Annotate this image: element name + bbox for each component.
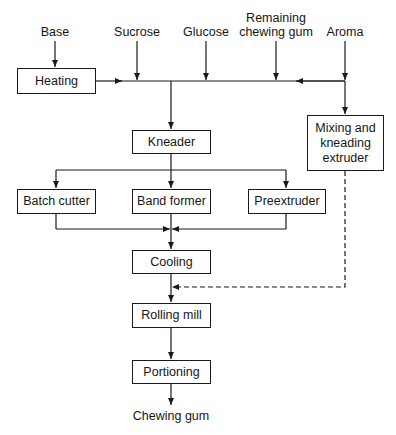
input-sucrose: Sucrose: [107, 25, 167, 39]
process-band-former: Band former: [132, 189, 211, 214]
input-base: Base: [35, 25, 75, 39]
process-mixing-line1: Mixing and: [315, 121, 375, 136]
process-preextruder: Preextruder: [248, 189, 326, 214]
process-kneader-label: Kneader: [148, 135, 195, 150]
input-remaining-gum-line2: chewing gum: [236, 25, 316, 39]
dashed-arrowhead: [172, 284, 179, 290]
input-remaining-gum-line1: Remaining: [236, 11, 316, 25]
process-heating-label: Heating: [35, 74, 78, 89]
process-kneader: Kneader: [132, 130, 211, 154]
process-mixing-extruder: Mixing and kneading extruder: [307, 115, 384, 171]
process-band-former-label: Band former: [137, 194, 206, 209]
process-batch-cutter: Batch cutter: [17, 189, 96, 214]
process-portioning-label: Portioning: [143, 365, 199, 380]
process-heating: Heating: [17, 68, 96, 94]
process-rolling-mill: Rolling mill: [132, 303, 211, 328]
output-chewing-gum: Chewing gum: [121, 409, 221, 423]
process-cooling-label: Cooling: [150, 255, 192, 270]
process-rolling-mill-label: Rolling mill: [141, 308, 201, 323]
input-glucose: Glucose: [176, 25, 236, 39]
process-mixing-line2: kneading: [320, 136, 371, 151]
process-mixing-line3: extruder: [323, 151, 369, 166]
process-preextruder-label: Preextruder: [254, 194, 319, 209]
process-cooling: Cooling: [132, 250, 211, 274]
input-aroma: Aroma: [315, 25, 375, 39]
process-batch-cutter-label: Batch cutter: [23, 194, 90, 209]
process-portioning: Portioning: [132, 360, 211, 384]
